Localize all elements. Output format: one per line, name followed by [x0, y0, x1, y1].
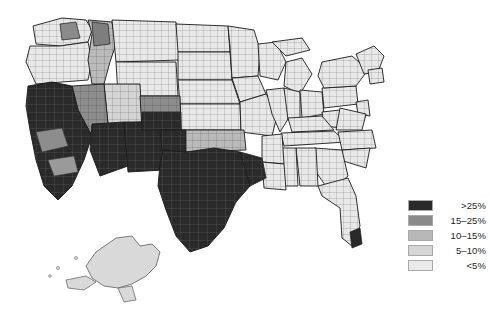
legend-item: <5%: [408, 259, 486, 271]
choropleth-figure: >25% 15–25% 10–15% 5–10% <5%: [0, 0, 490, 326]
legend-item: 10–15%: [408, 229, 486, 241]
legend-swatch: [408, 260, 433, 271]
legend-label: >25%: [438, 200, 486, 211]
legend-label: <5%: [438, 260, 486, 271]
choropleth-legend: >25% 15–25% 10–15% 5–10% <5%: [408, 199, 486, 271]
legend-label: 5–10%: [438, 245, 486, 256]
legend-label: 10–15%: [438, 230, 486, 241]
legend-item: >25%: [408, 199, 486, 211]
legend-item: 15–25%: [408, 214, 486, 226]
legend-swatch: [408, 215, 433, 226]
map-svg: [0, 0, 404, 326]
legend-item: 5–10%: [408, 244, 486, 256]
legend-label: 15–25%: [438, 215, 486, 226]
legend-swatch: [408, 245, 433, 256]
alaska-inset: [49, 236, 160, 302]
legend-swatch: [408, 200, 433, 211]
us-county-map: [0, 0, 404, 326]
legend-swatch: [408, 230, 433, 241]
